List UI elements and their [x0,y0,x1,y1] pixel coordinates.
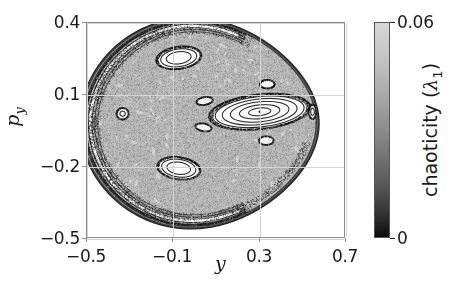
y-tick-mark [82,94,86,95]
y-axis-label-subscript: y [12,107,27,114]
gridline-vertical [260,23,261,237]
colorbar-tick-mark [390,22,395,23]
gridline-horizontal [87,95,344,96]
gridline-vertical [87,23,88,237]
poincare-section-figure: −0.5−0.10.30.7 0.40.1−0.2−0.5 y py 0.0 [0,0,453,287]
x-tick-mark [172,238,173,242]
colorbar-tick-label: 0.06 [397,12,434,32]
gridline-vertical [346,23,347,237]
x-axis-label-text: y [215,252,226,274]
colorbar-title: chaoticity (λ1) [419,63,445,197]
x-tick-mark [86,238,87,242]
y-axis-label: py [1,107,27,127]
colorbar-title-subscript: 1 [430,70,445,78]
x-tick-mark [345,238,346,242]
y-tick-label: 0.1 [28,84,80,104]
x-axis-label: y [215,252,226,274]
lambda-symbol: λ [419,79,441,91]
y-tick-mark [82,22,86,23]
x-tick-label: −0.5 [66,246,106,266]
gridline-horizontal [87,167,344,168]
gridline-vertical [173,23,174,237]
poincare-section-plot [87,23,346,239]
gridline-horizontal [87,23,344,24]
x-tick-label: 0.3 [246,246,272,266]
y-tick-mark [82,238,86,239]
x-tick-label: −0.1 [152,246,192,266]
colorbar-title-base: chaoticity ( [419,91,441,197]
plot-area [86,22,345,238]
x-tick-label: 0.7 [332,246,358,266]
y-tick-mark [82,166,86,167]
colorbar-gradient [375,23,389,237]
y-axis-label-base: p [1,115,23,127]
gridline-horizontal [87,239,344,240]
y-tick-label: −0.5 [28,228,80,248]
colorbar-tick-label: 0 [397,228,408,248]
colorbar-title-close: ) [419,63,441,70]
colorbar-tick-mark [390,238,395,239]
x-tick-mark [259,238,260,242]
y-tick-label: 0.4 [28,12,80,32]
colorbar [374,22,390,238]
y-tick-label: −0.2 [28,156,80,176]
